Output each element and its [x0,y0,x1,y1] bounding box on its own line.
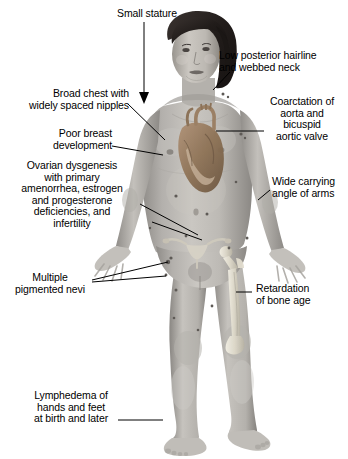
eye-left [182,48,189,52]
label-low-posterior-hairline: Low posterior hairline and webbed neck [219,50,345,73]
label-small-stature: Small stature [112,8,182,20]
label-multiple-pigmented-nevi: Multiple pigmented nevi [8,272,92,295]
ovary-right [225,239,232,244]
ovary-left [163,239,170,244]
label-retardation-bone-age: Retardation of bone age [256,283,340,306]
illustration-canvas: Small stature Low posterior hairline and… [0,0,348,459]
nipple-left [167,149,174,155]
label-ovarian-dysgenesis: Ovarian dysgenesis with primary amenorrh… [4,160,140,230]
eye-right [202,47,209,51]
label-poor-breast-development: Poor breast development [14,128,112,151]
label-coarctation-aorta: Coarctation of aorta and bicuspid aortic… [258,96,346,142]
label-wide-carrying-angle: Wide carrying angle of arms [272,176,348,199]
label-broad-chest: Broad chest with widely spaced nipples [4,88,129,111]
label-lymphedema: Lymphedema of hands and feet at birth an… [24,390,118,425]
